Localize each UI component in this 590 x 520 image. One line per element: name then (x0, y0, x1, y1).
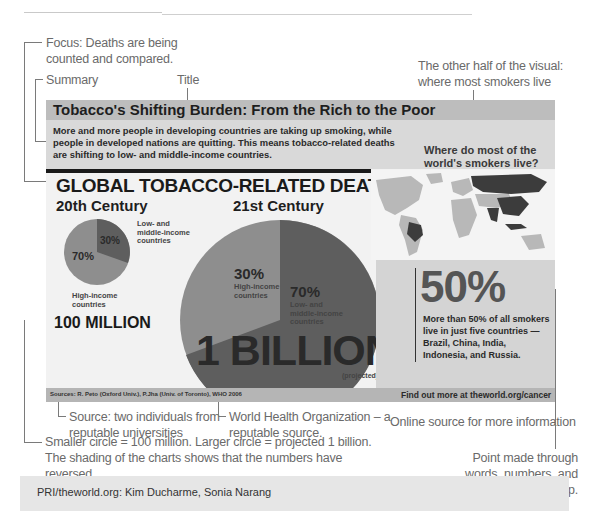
pie21-high-label: High-income countries (234, 283, 289, 300)
leader-line (218, 402, 219, 416)
leader-line (35, 79, 36, 141)
world-map (371, 170, 555, 260)
annotation-title: Title (177, 72, 199, 88)
top-rule-right (162, 14, 472, 15)
pie20-high-label: High-income countries (72, 292, 122, 309)
pie21-low-pct: 70% (290, 283, 320, 300)
leader-line (24, 442, 42, 443)
stat-text: More than 50% of all smokers live in jus… (423, 313, 553, 361)
century-21-label: 21st Century (233, 197, 324, 214)
top-rule (24, 12, 162, 13)
leader-line (24, 42, 25, 182)
main-heading: GLOBAL TOBACCO-RELATED DEATHS (56, 175, 405, 197)
annotation-focus: Focus: Deaths are being counted and comp… (46, 35, 186, 67)
leader-line (35, 79, 43, 80)
pie21-low-label: Low- and middle-income countries (290, 301, 350, 327)
heading-rule (46, 169, 371, 173)
leader-line (58, 402, 59, 416)
infographic: Tobacco's Shifting Burden: From the Rich… (46, 100, 555, 402)
leader-line (24, 320, 25, 443)
leader-line (24, 42, 42, 43)
stat-bracket (415, 268, 416, 362)
leader-line (24, 181, 46, 182)
leader-line (555, 289, 556, 449)
infographic-title: Tobacco's Shifting Burden: From the Rich… (53, 101, 435, 118)
leader-line (218, 416, 226, 417)
pie20-total: 100 MILLION (54, 314, 151, 332)
pie20-high-pct: 70% (72, 250, 94, 262)
credit-text: PRI/theworld.org: Kim Ducharme, Sonia Na… (37, 486, 271, 498)
pie21-high-pct: 30% (234, 265, 264, 282)
annotation-circles: Smaller circle = 100 million. Larger cir… (45, 434, 375, 482)
annotation-summary: Summary (46, 72, 98, 88)
find-out-link[interactable]: Find out more at theworld.org/cancer (401, 390, 551, 400)
century-20-label: 20th Century (56, 197, 148, 214)
sources-text: Sources: R. Peto (Oxford Univ.), P.Jha (… (50, 391, 242, 397)
infographic-summary: More and more people in developing count… (53, 125, 398, 161)
pie21-total: 1 BILLION (196, 326, 395, 375)
map-question: Where do most of the world's smokers liv… (424, 144, 544, 170)
pie21-note: (projected) (342, 372, 378, 379)
stat-big-number: 50% (420, 262, 505, 312)
leader-line (58, 416, 66, 417)
pie20-low-pct: 30% (100, 235, 120, 246)
annotation-online-source: Online source for more information (390, 414, 580, 430)
annotation-other-half: The other half of the visual: where most… (418, 58, 578, 90)
